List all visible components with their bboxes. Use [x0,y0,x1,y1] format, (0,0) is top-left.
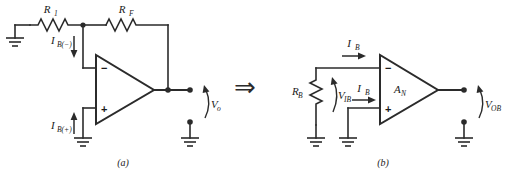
ground-symbol-output-b [455,119,473,146]
resistor-rb-label-sub: B [298,91,303,100]
current-arrow-ib-bottom-b [352,97,376,104]
panel-a: R 1 R F I B(−) − + [6,3,221,169]
voltage-arc-vo [203,85,210,118]
node-dot-output-a [165,87,171,93]
current-ib-plus-label-sub: B(+) [57,125,72,134]
current-ib-bottom-label: I [356,82,362,94]
circuit-figure: R 1 R F I B(−) − + [0,0,510,177]
opamp-gain-label-b: A [393,83,401,95]
voltage-vo-label-sub: o [217,104,221,113]
opamp-inverting-sign-b: − [385,62,391,74]
voltage-arc-vib [331,77,338,112]
caption-panel-b: (b) [377,157,389,169]
current-ib-bottom-label-sub: B [365,88,370,97]
implies-arrow-icon: ⇒ [234,72,256,102]
caption-panel-a: (a) [117,157,129,169]
voltage-arc-vob [477,85,484,118]
resistor-r1-label-sub: 1 [54,9,58,18]
ground-symbol-input-a [6,25,30,46]
current-ib-plus-label: I [50,119,56,131]
panel-b: R B I B V IB I B [291,37,501,169]
resistor-rf-label-sub: F [128,9,134,18]
resistor-rf-label: R [118,3,126,15]
ground-symbol-output-a [181,119,199,146]
resistor-r1 [30,19,83,31]
opamp-inverting-sign-a: − [101,62,107,74]
resistor-r1-label: R [43,3,51,15]
ground-symbol-noninverting-a [74,138,92,146]
ground-symbol-noninverting-b [339,138,357,146]
voltage-vob-label-sub: OB [491,104,501,113]
opamp-gain-label-sub-b: N [400,89,407,98]
terminal-dot-output-a [187,87,193,93]
resistor-rf [106,19,168,31]
circuit-diagram-canvas: R 1 R F I B(−) − + [0,0,510,177]
current-ib-top-label-sub: B [355,43,360,52]
opamp-noninverting-sign-b: + [385,103,391,115]
current-arrow-ib-top-b [342,53,366,60]
current-ib-top-label: I [346,37,352,49]
opamp-noninverting-sign-a: + [101,103,107,115]
current-ib-minus-label-sub: B(−) [57,40,72,49]
terminal-dot-output-b [461,87,467,93]
resistor-rb [310,68,322,125]
voltage-vib-label-sub: IB [343,95,351,104]
ground-symbol-rb-b [307,125,325,146]
current-ib-minus-label: I [50,34,56,46]
